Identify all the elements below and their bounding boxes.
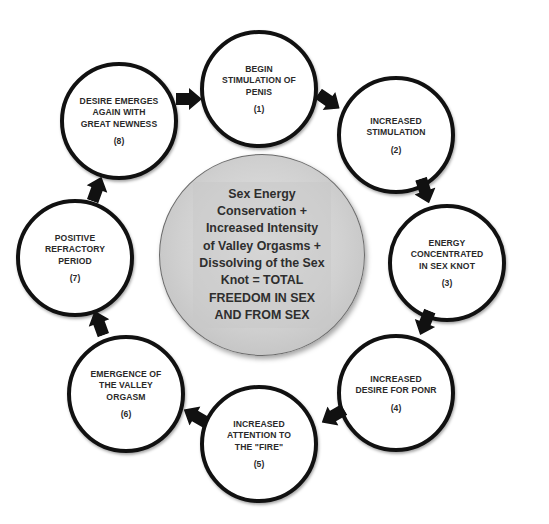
step-8-label: DESIRE EMERGES AGAIN WITH GREAT NEWNESS [74, 96, 165, 131]
step-3-number: (3) [442, 278, 453, 288]
step-8-node: DESIRE EMERGES AGAIN WITH GREAT NEWNESS … [60, 62, 178, 180]
step-7-number: (7) [70, 273, 81, 283]
center-hub: Sex Energy Conservation + Increased Inte… [159, 154, 365, 356]
step-5-number: (5) [254, 459, 265, 469]
step-4-number: (4) [391, 403, 402, 413]
step-3-label: ENERGY CONCENTRATED IN SEX KNOT [405, 238, 490, 273]
step-1-node: BEGIN STIMULATION OF PENIS (1) [200, 30, 318, 148]
step-6-number: (6) [121, 409, 132, 419]
step-3-node: ENERGY CONCENTRATED IN SEX KNOT (3) [388, 204, 506, 322]
step-2-label: INCREASED STIMULATION [360, 116, 431, 139]
cycle-diagram: Sex Energy Conservation + Increased Inte… [0, 0, 549, 524]
step-6-node: EMERGENCE OF THE VALLEY ORGASM (6) [67, 335, 185, 453]
cropped-header-text [0, 0, 549, 2]
arrow-6-to-7-icon [84, 307, 114, 339]
step-4-label: INCREASED DESIRE FOR PONR [349, 374, 442, 397]
arrow-2-to-3-icon [411, 175, 440, 207]
center-hub-text: Sex Energy Conservation + Increased Inte… [193, 182, 330, 328]
step-6-label: EMERGENCE OF THE VALLEY ORGASM [85, 369, 168, 404]
step-2-node: INCREASED STIMULATION (2) [337, 76, 455, 194]
step-5-node: INCREASED ATTENTION TO THE "FIRE" (5) [200, 385, 318, 503]
step-1-label: BEGIN STIMULATION OF PENIS [216, 64, 302, 99]
step-8-number: (8) [114, 136, 125, 146]
step-4-node: INCREASED DESIRE FOR PONR (4) [337, 334, 455, 452]
step-7-node: POSITIVE REFRACTORY PERIOD (7) [16, 199, 134, 317]
step-1-number: (1) [254, 104, 265, 114]
step-7-label: POSITIVE REFRACTORY PERIOD [39, 233, 111, 268]
arrow-8-to-1-icon [176, 88, 202, 110]
step-2-number: (2) [391, 145, 402, 155]
step-5-label: INCREASED ATTENTION TO THE "FIRE" [221, 419, 297, 454]
